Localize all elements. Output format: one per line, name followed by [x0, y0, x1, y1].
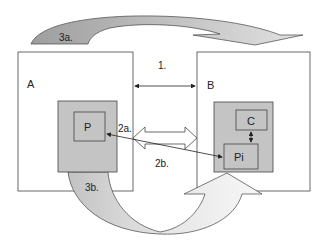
label-3a: 3a. [59, 32, 73, 43]
label-3b: 3b. [85, 182, 99, 193]
label-1: 1. [158, 60, 166, 71]
label-2b: 2b. [155, 158, 169, 169]
label-b: B [207, 79, 214, 91]
label-a: A [27, 78, 35, 90]
label-p: P [84, 121, 91, 133]
label-2a: 2a. [118, 123, 132, 134]
label-pi: Pi [234, 151, 244, 163]
diagram-canvas: 3a. A B 3b. P C Pi 1. 2b. 2a. [0, 0, 324, 244]
label-c: C [247, 115, 255, 127]
